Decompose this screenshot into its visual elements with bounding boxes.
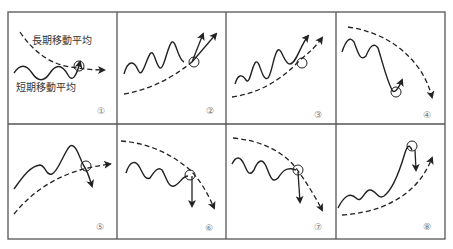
short-ma-line <box>14 145 92 189</box>
long-ma-line <box>342 158 432 215</box>
short-ma-line <box>232 158 296 180</box>
short-ma-line <box>338 146 412 208</box>
short-ma-line <box>124 42 184 74</box>
panel-5: ⑤ <box>14 145 110 232</box>
panel-number: ① <box>97 106 105 116</box>
panel-number: ④ <box>423 110 431 120</box>
panel-number: ⑧ <box>423 222 431 232</box>
rebound-circle <box>391 87 401 97</box>
crossover-circle <box>185 170 195 180</box>
panel-number: ⑦ <box>314 222 322 232</box>
panel-number: ② <box>206 106 214 116</box>
panel-7: ⑦ <box>232 138 322 232</box>
touch-circle <box>297 58 307 68</box>
panel-number: ⑤ <box>96 222 104 232</box>
short-ma-line <box>126 163 188 187</box>
long-ma-line <box>124 62 192 94</box>
grid-frame <box>8 12 445 239</box>
granville-diagram: 長期移動平均 短期移動平均 ① ② ③ ④ ⑤ ⑥ <box>0 0 453 249</box>
panel-6: ⑥ <box>121 141 214 233</box>
panel-2: ② <box>124 34 216 116</box>
panel-8: ⑧ <box>338 141 432 232</box>
long-ma-line <box>232 38 322 97</box>
long-ma-label: 長期移動平均 <box>32 34 92 46</box>
short-ma-line <box>14 62 80 80</box>
long-ma-line <box>121 141 214 208</box>
short-ma-line <box>342 39 402 91</box>
panel-number: ③ <box>314 110 322 120</box>
panel-3: ③ <box>232 36 322 120</box>
short-ma-label: 短期移動平均 <box>16 81 76 93</box>
panel-1: 長期移動平均 短期移動平均 ① <box>14 32 105 116</box>
panel-number: ⑥ <box>205 223 213 233</box>
long-ma-line <box>233 138 322 210</box>
panel-4: ④ <box>342 27 432 120</box>
short-ma-line <box>235 36 308 84</box>
